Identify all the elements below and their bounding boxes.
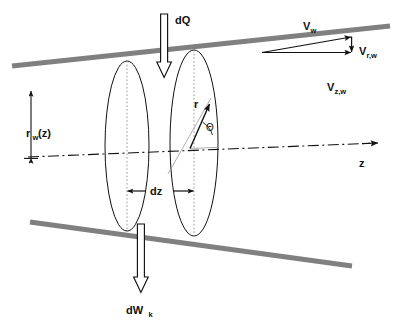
bottom-wall-line [30, 222, 352, 266]
velocity-axial-label: V z,w [327, 81, 346, 96]
svg-text:r,w: r,w [367, 51, 378, 60]
svg-text:dW: dW [126, 304, 144, 316]
svg-text:w: w [310, 26, 317, 35]
z-axis-line [28, 143, 370, 157]
z-axis-label: z [359, 157, 365, 169]
polar-chord-line [168, 98, 211, 174]
work-label: dW k [126, 304, 154, 319]
top-wall-line [12, 26, 390, 66]
z-axis-arrowhead [362, 143, 378, 144]
svg-text:k: k [149, 310, 154, 319]
svg-text:(z): (z) [38, 127, 51, 139]
axial-step-label: dz [150, 185, 163, 197]
svg-text:z,w: z,w [335, 87, 347, 96]
wake-control-volume-figure: z dQ dW k r w (z) dz r Θ [0, 0, 402, 333]
svg-text:r: r [26, 127, 31, 139]
wake-radius-label: r w (z) [26, 127, 51, 142]
radial-coord-label: r [194, 98, 199, 110]
heat-flux-label: dQ [175, 14, 191, 26]
theta-angle-label: Θ [206, 122, 214, 133]
heat-flux-arrow [157, 14, 172, 78]
velocity-radial-label: V r,w [359, 45, 377, 60]
diagram-canvas: z dQ dW k r w (z) dz r Θ [0, 0, 402, 333]
